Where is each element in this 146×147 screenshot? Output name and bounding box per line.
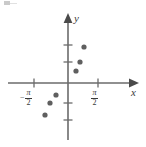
y-axis-arrowhead xyxy=(64,13,73,23)
fraction-denominator: 2 xyxy=(26,99,32,107)
data-point xyxy=(77,59,82,64)
fraction-neg-half-pi: π 2 xyxy=(25,89,32,107)
minus-sign: − xyxy=(20,94,25,102)
fraction-numerator: π xyxy=(91,89,97,97)
data-point xyxy=(53,92,58,97)
x-tick-label-negative-half-pi: − π 2 xyxy=(20,89,32,107)
data-point xyxy=(47,100,52,105)
fraction-pos-half-pi: π 2 xyxy=(91,89,98,107)
fraction-numerator: π xyxy=(26,89,32,97)
axes-group xyxy=(8,13,139,140)
y-axis-label: y xyxy=(74,13,79,24)
x-axis-label: x xyxy=(131,87,136,98)
data-point-group xyxy=(42,44,86,117)
data-point xyxy=(42,112,47,117)
x-tick-label-positive-half-pi: π 2 xyxy=(91,89,98,107)
data-point xyxy=(73,68,78,73)
scatter-plot-canvas xyxy=(0,0,146,147)
coordinate-plane-figure: y x − π 2 π 2 xyxy=(0,0,146,147)
data-point xyxy=(81,44,86,49)
fraction-denominator: 2 xyxy=(92,99,98,107)
